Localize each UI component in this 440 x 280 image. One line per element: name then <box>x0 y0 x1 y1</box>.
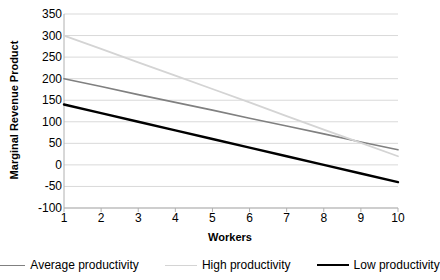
x-axis-tick-label: 6 <box>238 211 262 225</box>
x-axis-tick-label: 5 <box>200 211 224 225</box>
x-axis-tick-label: 4 <box>163 211 187 225</box>
x-axis-title: Workers <box>70 231 390 243</box>
legend-color-swatch <box>317 264 349 266</box>
legend-label: Low productivity <box>354 258 440 272</box>
legend-color-swatch <box>165 265 197 266</box>
legend-label: Average productivity <box>30 258 139 272</box>
x-axis-tick-label: 8 <box>312 211 336 225</box>
x-axis-tick-label: 1 <box>52 211 76 225</box>
chart-legend: Average productivityHigh productivityLow… <box>0 258 433 272</box>
x-axis-tick-label: 10 <box>386 211 410 225</box>
axis-lines <box>64 14 398 208</box>
legend-item[interactable]: High productivity <box>165 258 291 272</box>
series-line <box>64 36 398 157</box>
x-axis-tick-label: 3 <box>126 211 150 225</box>
gridlines <box>64 14 398 208</box>
legend-color-swatch <box>0 265 25 266</box>
x-axis-tick-label: 9 <box>349 211 373 225</box>
legend-item[interactable]: Average productivity <box>0 258 139 272</box>
x-axis-tick-label: 2 <box>89 211 113 225</box>
legend-item[interactable]: Low productivity <box>317 258 440 272</box>
legend-label: High productivity <box>202 258 291 272</box>
x-axis-tick-label: 7 <box>275 211 299 225</box>
